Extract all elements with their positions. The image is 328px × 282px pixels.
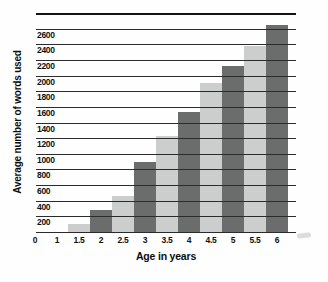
y-tick-label-2000: 2000 (37, 78, 55, 87)
gridline-600 (36, 185, 296, 186)
x-tick-label-2.5: 2.5 (118, 236, 129, 245)
y-tick-label-800: 800 (37, 171, 50, 180)
y-tick-label-600: 600 (37, 187, 50, 196)
x-tick-label-3.5: 3.5 (162, 236, 173, 245)
x-tick-label-6: 6 (275, 236, 279, 245)
gridline-200 (36, 216, 296, 217)
y-tick-label-1400: 1400 (37, 125, 55, 134)
gridline-1200 (36, 138, 296, 139)
gridline-0 (36, 232, 296, 233)
bar-age-4.5 (200, 83, 222, 232)
y-tick-label-1800: 1800 (37, 93, 55, 102)
vocabulary-bar-chart: Average number of words used 20040060080… (0, 0, 328, 282)
y-tick-label-1000: 1000 (37, 156, 55, 165)
y-tick-label-1200: 1200 (37, 140, 55, 149)
y-tick-label-2400: 2400 (37, 46, 55, 55)
gridline-2400 (36, 44, 296, 45)
gridline-1000 (36, 154, 296, 155)
y-tick-label-400: 400 (37, 203, 50, 212)
gridline-800 (36, 169, 296, 170)
gridline-2600 (36, 29, 296, 30)
plot-area: 2004006008001000120014001600180020002200… (0, 0, 328, 282)
y-tick-label-200: 200 (37, 218, 50, 227)
bar-age-4 (178, 112, 200, 232)
x-tick-label-5.5: 5.5 (250, 236, 261, 245)
y-tick-label-1600: 1600 (37, 109, 55, 118)
bar-age-2 (90, 210, 112, 232)
gridline-2200 (36, 60, 296, 61)
x-tick-label-2: 2 (99, 236, 103, 245)
x-tick-label-5: 5 (231, 236, 235, 245)
x-axis-title: Age in years (36, 250, 296, 262)
x-tick-label-1.5: 1.5 (74, 236, 85, 245)
gridline-1600 (36, 107, 296, 108)
x-tick-label-1: 1 (55, 236, 59, 245)
x-tick-label-0: 0 (33, 236, 37, 245)
x-tick-label-3: 3 (143, 236, 147, 245)
chart-top-border (36, 13, 296, 15)
gridline-2000 (36, 76, 296, 77)
bar-age-3.5 (156, 136, 178, 232)
x-tick-label-4: 4 (187, 236, 191, 245)
bar-age-1.5 (68, 224, 90, 232)
gridline-400 (36, 201, 296, 202)
x-tick-label-4.5: 4.5 (206, 236, 217, 245)
y-tick-label-2600: 2600 (37, 31, 55, 40)
gridline-1400 (36, 123, 296, 124)
gridline-1800 (36, 91, 296, 92)
y-tick-label-2200: 2200 (37, 62, 55, 71)
bar-age-3 (134, 162, 156, 232)
